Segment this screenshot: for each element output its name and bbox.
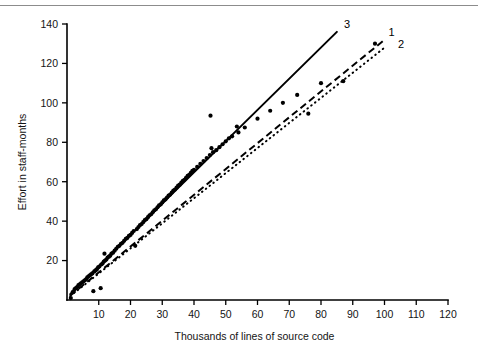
fitted-curve-2 bbox=[70, 48, 384, 296]
y-tick-label: 100 bbox=[40, 97, 58, 109]
data-point bbox=[208, 114, 212, 118]
data-point bbox=[281, 101, 285, 105]
data-point bbox=[99, 286, 103, 290]
x-tick-label: 60 bbox=[252, 308, 264, 320]
data-point bbox=[319, 81, 323, 85]
data-point bbox=[295, 93, 299, 97]
y-axis-title: Effort in staff-months bbox=[16, 114, 28, 211]
x-tick-label: 80 bbox=[315, 308, 327, 320]
x-axis-title: Thousands of lines of source code bbox=[175, 330, 335, 342]
axis-label-group: 2040608010012014010203040506070809010011… bbox=[16, 18, 457, 342]
fitted-curve-1 bbox=[70, 40, 384, 296]
y-tick-label: 60 bbox=[46, 176, 58, 188]
y-tick-label: 40 bbox=[46, 215, 58, 227]
x-tick-label: 100 bbox=[376, 308, 394, 320]
curve-label-3: 3 bbox=[344, 18, 350, 30]
data-point-group bbox=[69, 42, 377, 301]
data-point bbox=[243, 125, 247, 129]
x-tick-label: 90 bbox=[347, 308, 359, 320]
y-tick-label: 120 bbox=[40, 57, 58, 69]
y-tick-label: 20 bbox=[46, 254, 58, 266]
chart-figure: 2040608010012014010203040506070809010011… bbox=[0, 0, 478, 357]
data-point bbox=[255, 117, 259, 121]
x-tick-label: 20 bbox=[125, 308, 137, 320]
scatter-plot-canvas: 2040608010012014010203040506070809010011… bbox=[0, 0, 478, 357]
x-tick-label: 50 bbox=[220, 308, 232, 320]
x-tick-label: 70 bbox=[283, 308, 295, 320]
x-tick-label: 30 bbox=[156, 308, 168, 320]
data-point bbox=[306, 112, 310, 116]
x-tick-label: 40 bbox=[188, 308, 200, 320]
data-point bbox=[209, 146, 213, 150]
data-point bbox=[102, 252, 106, 256]
axis-group bbox=[62, 24, 448, 305]
fitted-curve-3 bbox=[70, 32, 337, 294]
x-tick-label: 120 bbox=[439, 308, 457, 320]
data-point bbox=[268, 109, 272, 113]
fitted-curve-group bbox=[70, 32, 384, 296]
curve-label-2: 2 bbox=[398, 38, 404, 50]
data-point bbox=[91, 289, 95, 293]
y-tick-label: 80 bbox=[46, 136, 58, 148]
x-tick-label: 10 bbox=[93, 308, 105, 320]
y-tick-label: 140 bbox=[40, 18, 58, 30]
x-tick-label: 110 bbox=[408, 308, 425, 320]
data-point bbox=[373, 42, 377, 46]
curve-label-1: 1 bbox=[389, 26, 395, 38]
